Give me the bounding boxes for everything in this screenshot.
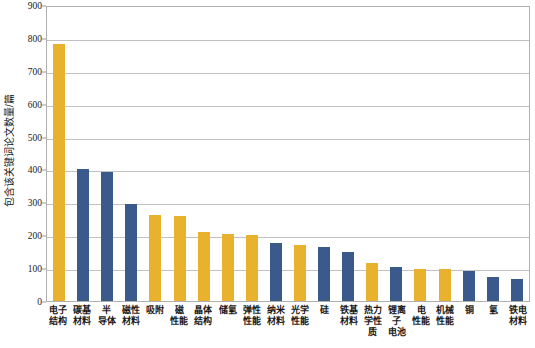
x-axis-tick-label-line1: 铜 — [457, 305, 481, 316]
x-axis-tick-label-line2: 材料 — [336, 316, 360, 327]
x-axis-tick-label-line2: 性能 — [240, 316, 264, 327]
x-axis-tick-label-line1: 半 — [94, 305, 118, 316]
bar[interactable] — [270, 243, 282, 301]
y-axis-tick-label: 100 — [28, 264, 42, 274]
bar[interactable] — [414, 269, 426, 301]
x-axis-tick-label: 硅 — [312, 303, 336, 316]
bar[interactable] — [318, 247, 330, 301]
x-axis-tick-label-line2: 材料 — [264, 316, 288, 327]
bar-slot — [312, 7, 336, 301]
x-axis-tick-label-line1: 铁电 — [506, 305, 530, 316]
bar[interactable] — [246, 235, 258, 301]
x-axis-tick-label-line2: 性能 — [409, 316, 433, 327]
bar[interactable] — [463, 271, 475, 301]
bar[interactable] — [101, 172, 113, 301]
bar-slot — [167, 7, 191, 301]
bar[interactable] — [198, 232, 210, 301]
x-axis-tick-label-line1: 磁 — [167, 305, 191, 316]
x-axis-tick-label-line1: 光学 — [288, 305, 312, 316]
x-axis-tick-label-line2: 性能 — [288, 316, 312, 327]
bar-slot — [119, 7, 143, 301]
x-axis-tick-label: 铁电材料 — [506, 303, 530, 327]
y-axis-title-text: 包含该关键词论文数量/篇 — [1, 94, 16, 207]
y-axis-tick-label: 700 — [28, 67, 42, 77]
x-axis-tick-label-line1: 磁性 — [119, 305, 143, 316]
bar[interactable] — [53, 44, 65, 302]
bar-slot — [143, 7, 167, 301]
x-axis-tick-label: 电性能 — [409, 303, 433, 327]
x-axis-tick-label-line2: 结构 — [46, 316, 70, 327]
x-axis-tick-label: 吸附 — [143, 303, 167, 316]
x-axis-tick-label-line1: 硅 — [312, 305, 336, 316]
x-axis-tick-label-line1: 储氢 — [215, 305, 239, 316]
x-axis-tick-label-line2: 材料 — [119, 316, 143, 327]
bar[interactable] — [342, 252, 354, 301]
x-axis-tick-label-line1: 机械 — [433, 305, 457, 316]
x-axis-tick-label-line1: 吸附 — [143, 305, 167, 316]
x-axis-tick-label-line1: 热力 — [361, 305, 385, 316]
x-axis-tick-label-line2: 电池 — [385, 327, 409, 338]
x-axis-tick-label-line2: 学性质 — [361, 316, 385, 338]
bar[interactable] — [366, 263, 378, 301]
y-axis-tick-label: 400 — [28, 165, 42, 175]
bar-slot — [240, 7, 264, 301]
bar[interactable] — [487, 277, 499, 301]
x-axis-tick-label: 磁性能 — [167, 303, 191, 327]
bar-slot — [384, 7, 408, 301]
x-axis-tick-label-line2: 结构 — [191, 316, 215, 327]
x-axis-tick-label-line2: 材料 — [506, 316, 530, 327]
x-axis-tick-label: 电子结构 — [46, 303, 70, 327]
bar[interactable] — [125, 204, 137, 301]
x-axis-tick-label: 纳米材料 — [264, 303, 288, 327]
x-axis-tick-label-line1: 电 — [409, 305, 433, 316]
bar-slot — [71, 7, 95, 301]
x-axis-tick-label: 碳基材料 — [70, 303, 94, 327]
bar-slot — [336, 7, 360, 301]
y-axis-title: 包含该关键词论文数量/篇 — [0, 0, 16, 300]
y-axis-tick-label: 800 — [28, 34, 42, 44]
x-axis-tick-label-line1: 弹性 — [240, 305, 264, 316]
x-axis-tick-label-line2: 性能 — [433, 316, 457, 327]
bar[interactable] — [149, 215, 161, 302]
bars-container — [47, 7, 529, 301]
bar-slot — [264, 7, 288, 301]
x-axis-tick-label-line2: 性能 — [167, 316, 191, 327]
x-axis-tick-label-line1: 铁基 — [336, 305, 360, 316]
bar[interactable] — [77, 169, 89, 301]
x-axis-tick-label-line1: 纳米 — [264, 305, 288, 316]
x-axis-tick-label-line1: 碳基 — [70, 305, 94, 316]
x-axis-tick-label: 氢 — [482, 303, 506, 316]
x-axis-tick-label: 铜 — [457, 303, 481, 316]
x-axis-tick-label: 光学性能 — [288, 303, 312, 327]
x-axis-tick-labels: 电子结构碳基材料半导体磁性材料吸附磁性能晶体结构储氢弹性性能纳米材料光学性能硅铁… — [46, 303, 530, 348]
bar[interactable] — [390, 267, 402, 302]
x-axis-tick-label: 铁基材料 — [336, 303, 360, 327]
y-axis-tick-label: 500 — [28, 133, 42, 143]
x-axis-tick-label: 锂离子电池 — [385, 303, 409, 338]
bar[interactable] — [174, 216, 186, 301]
x-axis-tick-label-line1: 电子 — [46, 305, 70, 316]
bar-slot — [192, 7, 216, 301]
bar-slot — [505, 7, 529, 301]
x-axis-tick-label: 储氢 — [215, 303, 239, 316]
y-axis-tick-label: 200 — [28, 231, 42, 241]
bar-slot — [216, 7, 240, 301]
x-axis-tick-label: 晶体结构 — [191, 303, 215, 327]
y-axis-tick-label: 300 — [28, 198, 42, 208]
y-axis-tick-label: 600 — [28, 100, 42, 110]
bar-chart: 包含该关键词论文数量/篇 010020030040050060070080090… — [0, 0, 535, 348]
bar-slot — [95, 7, 119, 301]
x-axis-tick-label: 磁性材料 — [119, 303, 143, 327]
bar-slot — [433, 7, 457, 301]
bar[interactable] — [222, 234, 234, 301]
x-axis-tick-label: 半导体 — [94, 303, 118, 327]
x-axis-tick-label: 热力学性质 — [361, 303, 385, 338]
bar[interactable] — [439, 269, 451, 301]
bar-slot — [481, 7, 505, 301]
x-axis-tick-label-line2: 材料 — [70, 316, 94, 327]
bar[interactable] — [294, 245, 306, 301]
x-axis-tick-label-line1: 氢 — [482, 305, 506, 316]
bar[interactable] — [511, 279, 523, 301]
bar-slot — [408, 7, 432, 301]
plot-area — [46, 6, 530, 302]
